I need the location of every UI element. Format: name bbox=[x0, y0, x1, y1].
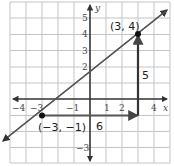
run-label: 6 bbox=[96, 120, 103, 133]
x-tick-label: −1 bbox=[66, 103, 79, 113]
point-a-label: (3, 4) bbox=[110, 20, 140, 33]
coordinate-graph: −4 −3 −1 1 2 4 x 5 4 3 2 −3 y (3, 4) (−3… bbox=[0, 0, 174, 166]
y-tick-label: 5 bbox=[82, 13, 88, 23]
x-tick-label: −4 bbox=[12, 103, 26, 113]
x-tick-label: −3 bbox=[30, 103, 44, 113]
y-tick-label: 3 bbox=[82, 46, 88, 56]
point-b-label: (−3, −1) bbox=[38, 121, 86, 134]
x-tick-label: 1 bbox=[104, 103, 110, 113]
x-tick-label: 4 bbox=[151, 103, 157, 113]
point-b bbox=[39, 113, 45, 119]
y-tick-label: 4 bbox=[82, 29, 88, 39]
y-tick-label: −3 bbox=[76, 143, 90, 153]
graph-svg: −4 −3 −1 1 2 4 x 5 4 3 2 −3 y (3, 4) (−3… bbox=[0, 0, 174, 166]
x-axis-label: x bbox=[163, 103, 168, 113]
rise-label: 5 bbox=[142, 69, 149, 82]
x-tick-label: 2 bbox=[119, 103, 125, 113]
y-axis-label: y bbox=[94, 3, 101, 13]
y-tick-label: 2 bbox=[82, 62, 88, 72]
